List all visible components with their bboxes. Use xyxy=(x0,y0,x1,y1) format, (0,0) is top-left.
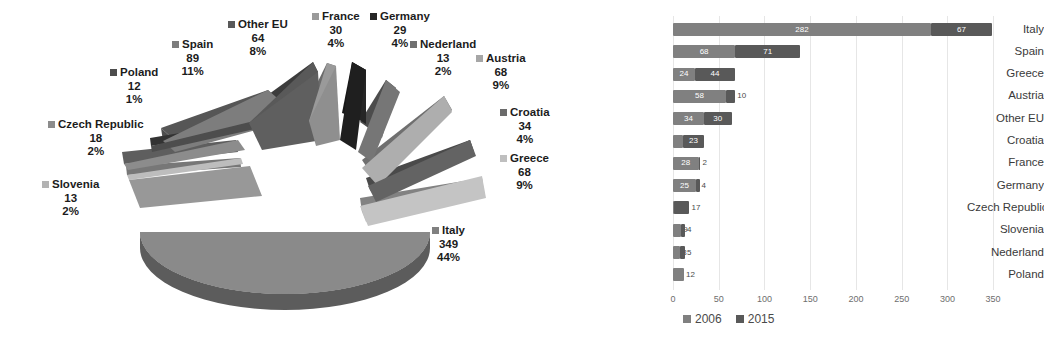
bar-legend-label: 2015 xyxy=(748,312,775,326)
bar-axis-tick-350: 350 xyxy=(978,294,1008,304)
pie-legend-swatch-icon xyxy=(110,69,117,76)
bar-legend-item-2006[interactable]: 2006 xyxy=(683,312,722,326)
bar-value-label: 4 xyxy=(687,225,691,235)
bar-segment-poland-2006 xyxy=(673,268,684,281)
pie-label-name-text: Other EU xyxy=(238,18,288,30)
pie-legend-swatch-icon xyxy=(312,13,319,20)
pie-label-value: 349 xyxy=(432,238,465,252)
pie-legend-swatch-icon xyxy=(370,13,377,20)
pie-label-name-text: Spain xyxy=(182,38,213,50)
bar-chart-gridline xyxy=(902,16,903,290)
bar-axis-tick-250: 250 xyxy=(887,294,917,304)
bar-category-label-poland: Poland xyxy=(967,268,1044,280)
pie-legend-swatch-icon xyxy=(476,55,483,62)
pie-label-percent: 44% xyxy=(432,251,465,265)
bar-value-label: 30 xyxy=(704,114,731,124)
bar-category-label-other-eu: Other EU xyxy=(967,112,1044,124)
pie-legend-swatch-icon xyxy=(42,181,49,188)
bar-chart-gridline xyxy=(810,16,811,290)
bar-segment-austria-2015 xyxy=(726,90,735,103)
bar-axis-tick-200: 200 xyxy=(841,294,871,304)
bar-segment-slovenia-2006 xyxy=(673,224,681,237)
pie-label-name-text: Slovenia xyxy=(52,178,99,190)
bar-value-label: 25 xyxy=(673,181,696,191)
pie-label-value: 12 xyxy=(110,80,158,94)
pie-label-name: Czech Republic xyxy=(48,118,144,132)
pie-label-slovenia: Slovenia132% xyxy=(42,178,99,219)
pie-label-value: 34 xyxy=(500,120,550,134)
pie-label-percent: 2% xyxy=(42,205,99,219)
bar-category-label-spain: Spain xyxy=(967,45,1044,57)
pie-label-name-text: Nederland xyxy=(420,38,476,50)
pie-label-name: Austria xyxy=(476,52,526,66)
pie-label-percent: 9% xyxy=(476,79,526,93)
bar-value-label: 28 xyxy=(673,158,699,168)
figure-root: Other EU648%France304%Germany294%Nederla… xyxy=(0,0,1044,342)
pie-label-name-text: Germany xyxy=(380,10,430,22)
pie-label-percent: 8% xyxy=(228,45,288,59)
bar-value-label: 2 xyxy=(702,158,706,168)
pie-label-name: Spain xyxy=(172,38,213,52)
pie-label-value: 68 xyxy=(476,66,526,80)
pie-label-name: Nederland xyxy=(410,38,476,52)
bar-value-label: 10 xyxy=(737,91,746,101)
bar-segment-germany-2015 xyxy=(696,179,700,192)
pie-label-value: 18 xyxy=(48,132,144,146)
bar-axis-tick-0: 0 xyxy=(658,294,688,304)
pie-chart-panel: Other EU648%France304%Germany294%Nederla… xyxy=(0,0,560,342)
pie-label-nederland: Nederland132% xyxy=(410,38,476,79)
bar-category-label-greece: Greece xyxy=(967,67,1044,79)
pie-label-name: Germany xyxy=(370,10,430,24)
pie-label-other-eu: Other EU648% xyxy=(228,18,288,59)
pie-label-value: 30 xyxy=(312,24,360,38)
bar-chart-gridline xyxy=(947,16,948,290)
pie-legend-swatch-icon xyxy=(500,155,507,162)
pie-label-percent: 11% xyxy=(172,65,213,79)
pie-legend-swatch-icon xyxy=(432,227,439,234)
pie-label-czech-republic: Czech Republic182% xyxy=(48,118,144,159)
pie-label-percent: 4% xyxy=(500,133,550,147)
pie-label-name-text: Italy xyxy=(442,224,465,236)
bar-legend-item-2015[interactable]: 2015 xyxy=(736,312,775,326)
pie-label-value: 29 xyxy=(370,24,430,38)
pie-label-austria: Austria689% xyxy=(476,52,526,93)
bar-value-label: 67 xyxy=(931,25,992,35)
bar-legend-swatch-icon xyxy=(683,315,691,323)
pie-label-greece: Greece689% xyxy=(500,152,549,193)
pie-label-percent: 1% xyxy=(110,93,158,107)
bar-value-label: 5 xyxy=(687,248,691,258)
bar-value-label: 68 xyxy=(673,47,735,57)
bar-category-label-nederland: Nederland xyxy=(967,246,1044,258)
bar-segment-france-2015 xyxy=(699,157,701,170)
bar-value-label: 58 xyxy=(673,91,726,101)
pie-label-name-text: Czech Republic xyxy=(58,118,144,130)
pie-legend-swatch-icon xyxy=(48,121,55,128)
bar-segment-nederland-2015 xyxy=(680,246,685,259)
bar-value-label: 71 xyxy=(735,47,800,57)
pie-label-croatia: Croatia344% xyxy=(500,106,550,147)
bar-value-label: 23 xyxy=(683,136,704,146)
pie-label-name-text: France xyxy=(322,10,360,22)
pie-legend-swatch-icon xyxy=(410,41,417,48)
pie-label-poland: Poland121% xyxy=(110,66,158,107)
pie-label-name: France xyxy=(312,10,360,24)
pie-label-value: 64 xyxy=(228,32,288,46)
pie-label-percent: 2% xyxy=(48,145,144,159)
bar-category-label-slovenia: Slovenia xyxy=(967,223,1044,235)
bar-category-label-germany: Germany xyxy=(967,179,1044,191)
bar-segment-croatia-2006 xyxy=(673,135,683,148)
pie-label-name: Poland xyxy=(110,66,158,80)
bar-chart-legend: 20062015 xyxy=(683,312,788,326)
pie-legend-swatch-icon xyxy=(172,41,179,48)
bar-segment-nederland-2006 xyxy=(673,246,680,259)
pie-label-name: Greece xyxy=(500,152,549,166)
bar-axis-tick-50: 50 xyxy=(704,294,734,304)
pie-label-value: 68 xyxy=(500,166,549,180)
pie-legend-swatch-icon xyxy=(500,109,507,116)
bar-legend-label: 2006 xyxy=(695,312,722,326)
bar-segment-czech-republic-2015 xyxy=(674,201,690,214)
pie-label-name-text: Greece xyxy=(510,152,549,164)
pie-label-value: 13 xyxy=(410,52,476,66)
pie-label-percent: 2% xyxy=(410,65,476,79)
bar-axis-tick-100: 100 xyxy=(749,294,779,304)
